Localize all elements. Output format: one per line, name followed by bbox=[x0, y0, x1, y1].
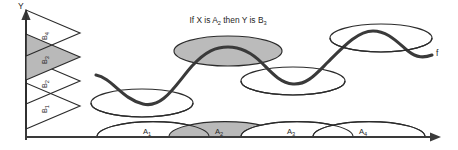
y-set-label-b1: B1 bbox=[40, 105, 50, 113]
y-fuzzy-sets bbox=[26, 10, 80, 129]
y-set-triangle-b1 bbox=[26, 83, 80, 129]
figure-canvas: B1 B2 B3 B4 bbox=[0, 0, 458, 150]
y-set-label-b2: B2 bbox=[40, 80, 50, 88]
x-set-dome-a4 bbox=[313, 122, 425, 137]
y-set-triangle-b3 bbox=[26, 34, 80, 80]
rule-annotation: If X is A2 then Y is B3 bbox=[189, 15, 266, 26]
fuzzy-patch-2 bbox=[174, 36, 282, 66]
fuzzy-system-figure: B1 B2 B3 B4 bbox=[0, 0, 458, 150]
y-axis-label: Y bbox=[18, 1, 24, 11]
function-label-f: f bbox=[436, 48, 439, 58]
y-set-label-b4: B4 bbox=[40, 32, 50, 40]
x-fuzzy-sets bbox=[26, 122, 432, 137]
